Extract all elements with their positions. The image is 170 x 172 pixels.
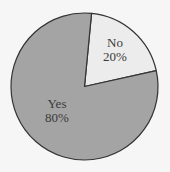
slice-label-no-name: No: [107, 35, 123, 50]
slice-label-yes-percent: 80%: [45, 110, 69, 125]
pie-chart: No 20% Yes 80%: [0, 0, 170, 172]
pie-slices: [11, 13, 158, 160]
slice-label-yes-name: Yes: [48, 96, 67, 111]
slice-label-no-percent: 20%: [103, 49, 127, 64]
